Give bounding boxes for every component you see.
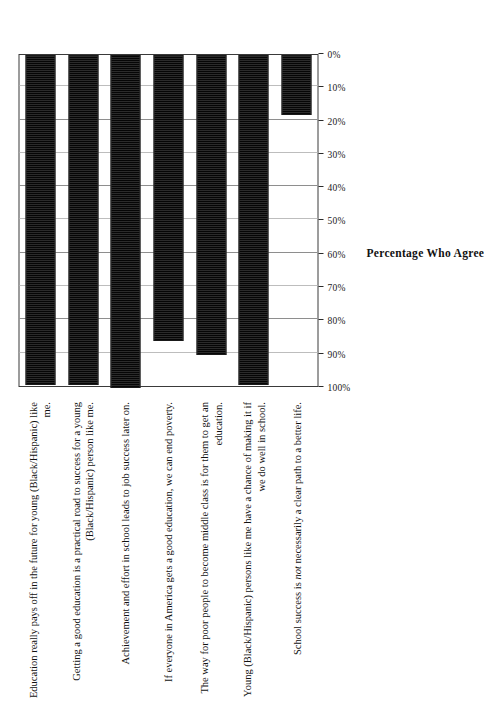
bar-education-end-poverty[interactable]: [153, 55, 183, 341]
tick-40: [318, 186, 323, 187]
tick-label-50: 50%: [327, 217, 345, 227]
category-label-school-success-not-clear-path: School success is not necessarily a clea…: [290, 402, 303, 655]
bar-row: [196, 55, 226, 386]
tick-label-100: 100%: [327, 383, 350, 393]
bar-school-success-not-clear-path[interactable]: [281, 55, 311, 115]
tick-50: [318, 220, 323, 221]
label-text: If everyone in America gets a good educa…: [162, 402, 173, 682]
category-label-poor-to-middle-class: The way for poor people to become middle…: [197, 402, 224, 702]
bar-row: [153, 55, 183, 386]
tick-label-10: 10%: [327, 83, 345, 93]
category-label-row: The way for poor people to become middle…: [196, 402, 226, 720]
tick-label-90: 90%: [327, 350, 345, 360]
category-label-column: Education really pays off in the future …: [18, 402, 318, 720]
label-text: necessarily a clear path to a better lif…: [291, 402, 302, 566]
label-text: School success is: [291, 580, 302, 656]
tick-20: [318, 120, 323, 121]
axis-title: Percentage Who Agree: [366, 247, 484, 259]
category-label-row: Achievement and effort in school leads t…: [110, 402, 140, 720]
bar-row: [238, 55, 268, 386]
plot-area: [18, 54, 318, 387]
category-label-row: If everyone in America gets a good educa…: [153, 402, 183, 720]
category-label-achievement-effort-job-success: Achievement and effort in school leads t…: [118, 402, 131, 665]
bar-education-pays-off[interactable]: [25, 55, 55, 385]
label-text: Education really pays off in the future …: [27, 402, 51, 698]
category-label-education-pays-off: Education really pays off in the future …: [26, 402, 53, 702]
category-label-row: Young (Black/Hispanic) persons like me h…: [239, 402, 269, 720]
tick-10: [318, 86, 323, 87]
tick-label-60: 60%: [327, 250, 345, 260]
label-text: Getting a good education is a practical …: [70, 402, 94, 681]
tick-label-80: 80%: [327, 316, 345, 326]
bar-row: [25, 55, 55, 386]
category-label-row: School success is not necessarily a clea…: [281, 402, 311, 720]
bar-series: [19, 55, 317, 386]
emphasis-text: not: [291, 566, 302, 579]
tick-70: [318, 286, 323, 287]
tick-100: [318, 386, 323, 387]
bar-poor-to-middle-class[interactable]: [196, 55, 226, 355]
tick-0: [318, 53, 323, 54]
category-label-row: Getting a good education is a practical …: [67, 402, 97, 720]
bar-row: [68, 55, 98, 386]
category-label-row: Education really pays off in the future …: [24, 402, 54, 720]
tick-label-20: 20%: [327, 117, 345, 127]
tick-label-0: 0%: [327, 50, 340, 60]
tick-30: [318, 153, 323, 154]
tick-label-70: 70%: [327, 283, 345, 293]
tick-label-40: 40%: [327, 183, 345, 193]
label-text: Young (Black/Hispanic) persons like me h…: [241, 402, 265, 697]
tick-90: [318, 353, 323, 354]
category-label-education-end-poverty: If everyone in America gets a good educa…: [161, 402, 174, 682]
bar-chance-of-making-it[interactable]: [238, 55, 268, 385]
label-text: Achievement and effort in school leads t…: [119, 402, 130, 665]
category-label-good-education-practical-road: Getting a good education is a practical …: [69, 402, 96, 702]
bar-good-education-practical-road[interactable]: [68, 55, 98, 385]
category-label-chance-of-making-it: Young (Black/Hispanic) persons like me h…: [240, 402, 267, 702]
bar-achievement-effort-job-success[interactable]: [110, 55, 140, 388]
tick-label-30: 30%: [327, 150, 345, 160]
bar-row: [110, 55, 140, 386]
label-text: The way for poor people to become middle…: [198, 402, 222, 694]
bar-row: [281, 55, 311, 386]
tick-60: [318, 253, 323, 254]
tick-80: [318, 319, 323, 320]
